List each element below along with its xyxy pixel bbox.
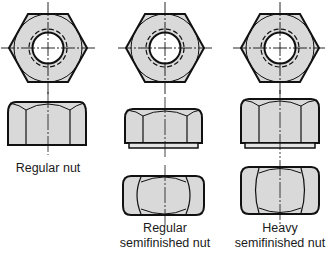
heavy-semifinished-nut-label: Heavy semifinished nut bbox=[225, 221, 330, 251]
regular-nut-top-view bbox=[1, 2, 95, 94]
regular-semifinished-nut-label-line-2: semifinished nut bbox=[110, 236, 220, 251]
heavy-semifinished-nut-label-line-1: Heavy bbox=[225, 221, 330, 236]
regular-semifinished-nut-label-line-1: Regular bbox=[110, 221, 220, 236]
heavy-semifinished-nut-front-view bbox=[241, 160, 319, 224]
heavy-semifinished-nut-side-view bbox=[241, 90, 319, 158]
regular-nut-side-view bbox=[8, 92, 86, 155]
regular-nut-label: Regular nut bbox=[0, 161, 96, 176]
regular-semifinished-nut-label: Regular semifinished nut bbox=[110, 221, 220, 251]
regular-semifinished-nut-side-view bbox=[125, 97, 202, 158]
heavy-semifinished-nut-top-view bbox=[233, 2, 325, 94]
heavy-semifinished-nut-label-line-2: semifinished nut bbox=[225, 236, 330, 251]
regular-nut-label-line-1: Regular nut bbox=[0, 161, 96, 176]
regular-semifinished-nut-top-view bbox=[118, 2, 212, 94]
regular-semifinished-nut-front-view bbox=[123, 165, 204, 226]
